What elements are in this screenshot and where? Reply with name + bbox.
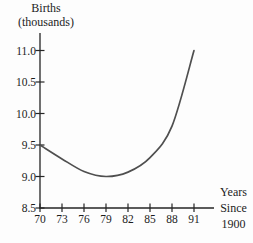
x-axis-title-line1: Years: [214, 184, 253, 200]
x-axis-title-line2: Since: [214, 200, 253, 216]
births-curve: [40, 51, 194, 177]
x-tick-label-73: 73: [51, 212, 73, 226]
x-tick-label-76: 76: [73, 212, 95, 226]
y-tick-label-10-5: 10.5: [8, 75, 36, 89]
births-line-chart-figure: Births (thousands) 11.0 10.5 10.0 9.5 9.…: [0, 0, 253, 243]
y-tick-label-10-0: 10.0: [8, 107, 36, 121]
x-tick-label-85: 85: [139, 212, 161, 226]
x-axis-title: Years Since 1900: [214, 184, 253, 232]
axes-lines: [40, 33, 214, 208]
x-tick-label-91: 91: [183, 212, 205, 226]
x-tick-label-70: 70: [29, 212, 51, 226]
x-tick-label-82: 82: [117, 212, 139, 226]
y-tick-label-9-5: 9.5: [8, 138, 36, 152]
y-tick-label-11-0: 11.0: [8, 44, 36, 58]
x-tick-label-79: 79: [95, 212, 117, 226]
y-tick-label-9-0: 9.0: [8, 170, 36, 184]
x-axis-title-line3: 1900: [214, 216, 253, 232]
x-tick-label-88: 88: [161, 212, 183, 226]
